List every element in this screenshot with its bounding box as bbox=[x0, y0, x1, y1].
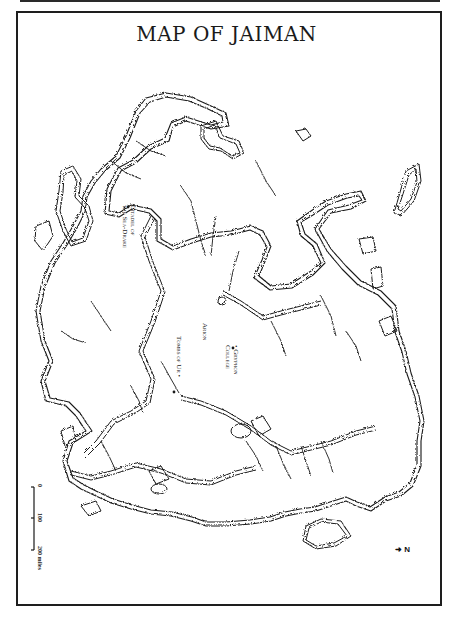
label-gryphon-line2: College bbox=[224, 345, 232, 375]
label-citadel-of-the-sea-drake: Citadel of the Sea-Drake bbox=[121, 205, 137, 248]
label-gryphon-college: • Gryphon College bbox=[224, 345, 240, 375]
western-islands bbox=[34, 165, 92, 250]
lakes bbox=[150, 296, 250, 493]
scale-label-100: 100 bbox=[37, 513, 43, 522]
label-arion-text: Arion bbox=[201, 323, 209, 340]
eastern-islands bbox=[358, 163, 420, 335]
tombs-marker bbox=[173, 391, 176, 394]
southern-islands bbox=[60, 415, 350, 548]
northern-islands bbox=[200, 120, 310, 158]
inner-coastlines bbox=[70, 215, 375, 484]
label-gryphon-line1: • Gryphon bbox=[232, 345, 240, 375]
north-compass: ➜ N bbox=[395, 545, 410, 554]
mainland-coastline bbox=[35, 92, 423, 525]
label-citadel-line2: the Sea-Drake bbox=[121, 205, 129, 248]
map-canvas bbox=[0, 0, 453, 625]
scale-label-200-miles: 200 miles bbox=[37, 546, 43, 570]
label-arion: Arion bbox=[201, 323, 209, 340]
label-tombs-text: Tombs of Ur • bbox=[175, 336, 183, 377]
north-arrow-icon: ➜ bbox=[395, 545, 402, 554]
scale-bar bbox=[31, 487, 34, 550]
scale-label-0: 0 bbox=[37, 484, 43, 487]
label-citadel-line1: Citadel of bbox=[129, 205, 137, 248]
label-tombs-of-ur: Tombs of Ur • bbox=[175, 336, 183, 377]
north-label: N bbox=[404, 545, 410, 554]
